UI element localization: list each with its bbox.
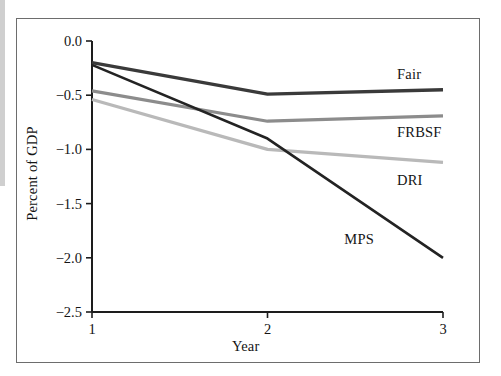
x-axis-tick-label: 1 — [72, 322, 112, 337]
series-label-frbsf: FRBSF — [397, 125, 442, 140]
series-label-dri: DRI — [397, 173, 423, 188]
series-line-dri — [92, 100, 443, 163]
chart-axes — [92, 41, 443, 312]
y-axis-title: Percent of GDP — [24, 114, 41, 234]
y-axis-tick-label: −2.0 — [36, 251, 82, 266]
y-axis-tick-label: −1.0 — [36, 142, 82, 157]
y-axis-tick-label: −1.5 — [36, 197, 82, 212]
series-line-fair — [92, 63, 443, 94]
y-axis-tick-label: −2.5 — [36, 305, 82, 320]
x-axis-title: Year — [232, 338, 260, 355]
line-chart: 0.0−0.5−1.0−1.5−2.0−2.5 123 FairFRBSFDRI… — [0, 0, 501, 376]
series-label-fair: Fair — [397, 67, 421, 82]
series-label-mps: MPS — [344, 232, 374, 247]
chart-series-lines — [92, 63, 443, 258]
x-axis-tick-label: 2 — [248, 322, 288, 337]
y-axis-tick-label: −0.5 — [36, 88, 82, 103]
y-axis-tick-label: 0.0 — [36, 34, 82, 49]
x-axis-tick-label: 3 — [423, 322, 463, 337]
